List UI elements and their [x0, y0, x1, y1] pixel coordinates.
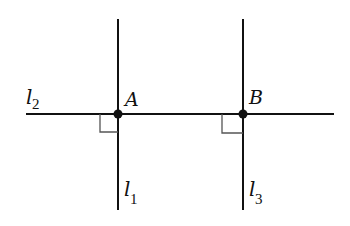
point-A — [114, 110, 123, 119]
label-A: A — [123, 88, 139, 110]
label-l1: l 1 — [124, 177, 138, 207]
svg-text:1: 1 — [130, 191, 138, 207]
label-l3: l 3 — [249, 177, 263, 207]
diagram-canvas: A B l 2 l 1 l 3 — [0, 0, 350, 226]
svg-text:3: 3 — [255, 191, 263, 207]
svg-text:2: 2 — [32, 96, 40, 112]
label-l2: l 2 — [26, 85, 40, 112]
point-B — [239, 110, 248, 119]
label-B: B — [248, 86, 263, 108]
